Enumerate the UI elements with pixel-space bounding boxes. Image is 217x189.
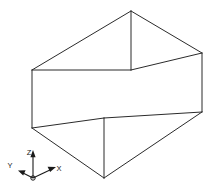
- box-edge-bottom-right-to-near: [104, 112, 202, 118]
- x-axis-line: [33, 169, 52, 178]
- x-axis-label: X: [56, 164, 61, 173]
- isometric-box-drawing: Z X Y: [0, 0, 217, 189]
- box-edge-bottom-left-to-front: [32, 128, 104, 178]
- figure-canvas: Z X Y: [0, 0, 217, 189]
- box-edge-top-back-to-top-right: [131, 11, 202, 53]
- y-axis-line: [23, 173, 33, 178]
- y-axis-label: Y: [7, 161, 12, 170]
- y-axis-arrowhead-icon: [18, 170, 26, 175]
- cuboid-edges: [32, 11, 202, 178]
- box-edge-top-back-to-top-left: [32, 11, 131, 70]
- box-edge-top-right-to-center: [131, 53, 202, 70]
- box-edge-bottom-right-to-front: [104, 112, 202, 178]
- z-axis-label: Z: [27, 148, 32, 157]
- x-axis-arrowhead-icon: [48, 167, 56, 172]
- box-edge-bottom-left-to-near: [32, 118, 104, 128]
- axis-triad: Z X Y: [7, 148, 61, 180]
